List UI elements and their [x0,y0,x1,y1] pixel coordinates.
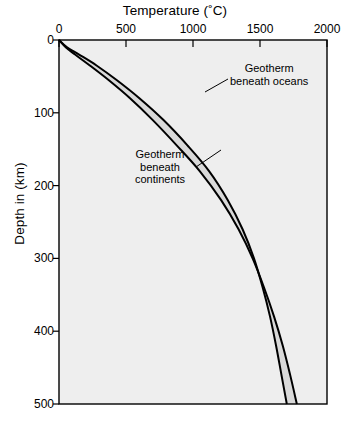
continents-annotation-line-2: beneath [119,161,201,174]
plot-background [59,40,327,404]
continents-annotation: Geotherm beneath continents [119,148,201,186]
geotherm-chart: Temperature (˚C) Depth in (km) 0 500 100… [0,0,350,422]
continents-annotation-line-1: Geotherm [119,148,201,161]
oceans-annotation-line-1: Geotherm [230,62,308,75]
continents-annotation-line-3: continents [119,173,201,186]
oceans-annotation-line-2: beneath oceans [230,75,308,88]
oceans-annotation: Geotherm beneath oceans [230,62,308,87]
